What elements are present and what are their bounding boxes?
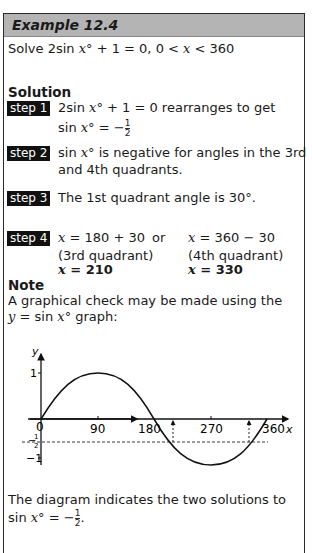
step-4-q4: (4th quadrant) <box>188 248 283 263</box>
svg-text:180: 180 <box>138 422 161 436</box>
solution-heading: Solution <box>8 84 71 100</box>
conclusion-text-1: The diagram indicates the two solutions … <box>8 492 286 507</box>
conclusion-text-2: sin x° = −12. <box>8 509 85 528</box>
svg-text:2: 2 <box>34 442 38 450</box>
step-2-badge: step 2 <box>7 146 50 161</box>
step-1-badge: step 1 <box>7 101 50 116</box>
step-3-text: The 1st quadrant angle is 30°. <box>58 190 256 205</box>
sine-graph: y 1 −1 − 1 2 0 90 180 270 360 x <box>0 340 312 470</box>
svg-text:x: x <box>285 423 293 436</box>
step-4-eq2: x = 360 − 30 <box>188 230 275 245</box>
svg-text:360: 360 <box>262 422 285 436</box>
svg-text:1: 1 <box>30 367 37 380</box>
svg-text:−1: −1 <box>26 452 42 465</box>
svg-text:90: 90 <box>90 422 105 436</box>
svg-text:270: 270 <box>200 422 223 436</box>
answer-330: x = 330 <box>188 262 243 277</box>
step-4-or: or <box>152 230 165 245</box>
step-4-badge: step 4 <box>7 231 50 246</box>
step-1-text: 2sin x° + 1 = 0 rearranges to get <box>58 100 275 115</box>
svg-text:0: 0 <box>36 420 44 434</box>
step-4-eq1: x = 180 + 30 <box>58 230 145 245</box>
step-2-text: sin x° is negative for angles in the 3rd <box>58 145 306 160</box>
step-4-q3: (3rd quadrant) <box>58 248 153 263</box>
note-heading: Note <box>8 277 44 293</box>
note-text-1: A graphical check may be made using the <box>8 293 282 308</box>
step-1-result: sin x° = −12 <box>58 119 130 138</box>
step-2-text-2: and 4th quadrants. <box>58 162 183 177</box>
problem-statement: Solve 2sin x° + 1 = 0, 0 < x < 360 <box>8 41 234 56</box>
step-3-badge: step 3 <box>7 191 50 206</box>
svg-text:1: 1 <box>34 433 38 441</box>
svg-text:y: y <box>31 345 39 358</box>
example-title: Example 12.4 <box>4 14 304 37</box>
answer-210: x = 210 <box>58 262 113 277</box>
note-text-2: y = sin x° graph: <box>8 309 118 324</box>
